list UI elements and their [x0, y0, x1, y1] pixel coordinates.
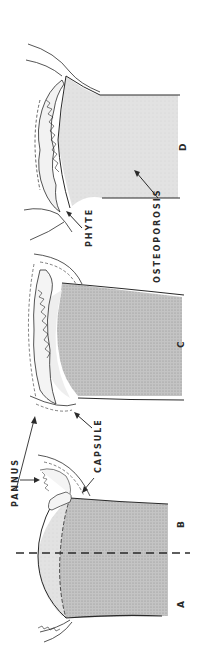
label-phyte: PHYTE — [86, 208, 94, 247]
diagram-drawing — [0, 0, 206, 663]
panel-letter-b: B — [177, 521, 186, 528]
panel-letter-d: D — [179, 144, 188, 151]
panel-letter-a: A — [177, 601, 186, 608]
joint-pathology-diagram: OSTEOPOROSIS PHYTE CAPSULE PANNUS D C B … — [0, 0, 206, 663]
panel-letter-c: C — [177, 341, 186, 348]
panel-ab — [16, 455, 190, 642]
label-capsule: CAPSULE — [95, 418, 103, 473]
label-pannus: PANNUS — [12, 458, 20, 507]
label-osteoporosis: OSTEOPOROSIS — [154, 189, 162, 283]
